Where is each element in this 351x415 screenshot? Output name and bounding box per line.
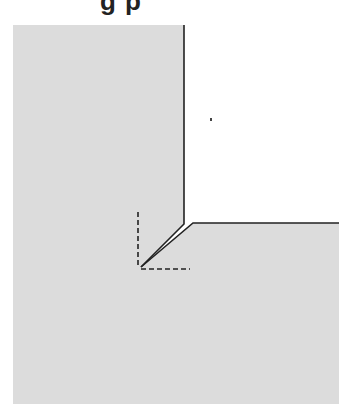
l-shape-notch-diagram [0, 0, 351, 415]
l-shape-region [13, 25, 339, 404]
stray-mark [210, 118, 212, 121]
